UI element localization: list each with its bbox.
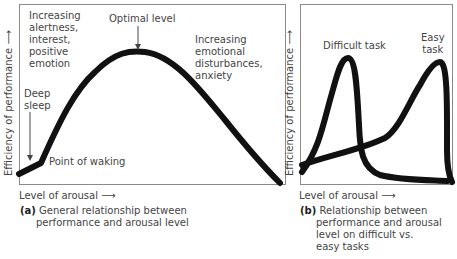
increasing-alertness-label: Increasing alertness, interest, positive… <box>29 10 81 70</box>
point-of-waking-label: Point of waking <box>49 156 125 168</box>
panel-a-x-axis-label: Level of arousal ⟶ <box>19 190 116 202</box>
panel-b-x-axis-label: Level of arousal ⟶ <box>299 190 396 202</box>
panel-b-y-axis-label: Efficiency of performance ⟶ <box>284 30 295 176</box>
increasing-disturbance-label: Increasing emotional disturbances, anxie… <box>195 34 263 82</box>
panel-b-caption: (b) Relationship between performance and… <box>300 205 442 253</box>
deep-sleep-label: Deep sleep <box>24 88 51 112</box>
easy-task-label: Easy task <box>421 32 445 56</box>
panel-a-caption: (a) General relationship between perform… <box>20 205 189 229</box>
panel-a-y-axis-label: Efficiency of performance ⟶ <box>3 30 14 176</box>
difficult-task-label: Difficult task <box>323 40 386 52</box>
optimal-level-label: Optimal level <box>109 13 176 25</box>
